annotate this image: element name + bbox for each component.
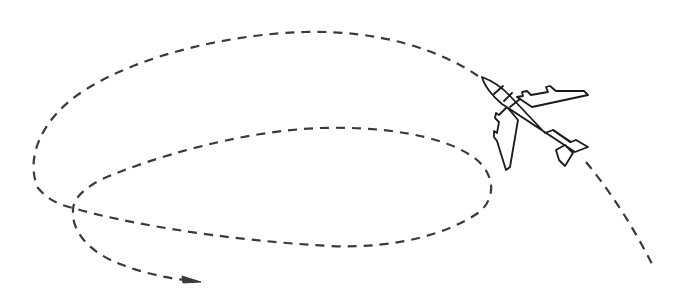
trajectory-tail-path <box>586 162 653 266</box>
airplane-icon <box>482 77 588 170</box>
airplane-right-wing <box>517 86 588 107</box>
flight-path-illustration: Airplane flight trajectory with loops <box>0 0 687 304</box>
arrowhead-icon <box>182 276 201 283</box>
flight-path-svg <box>0 0 687 304</box>
airplane-left-wing <box>494 107 518 170</box>
trajectory-loop-path <box>33 32 491 280</box>
